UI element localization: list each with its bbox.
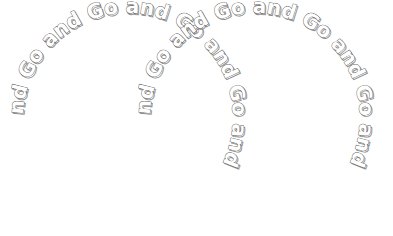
word-art-svg: Go and Go and Go and Go and Go and Go an…	[0, 0, 393, 236]
artwork-canvas: Go and Go and Go and Go and Go and Go an…	[0, 0, 393, 236]
